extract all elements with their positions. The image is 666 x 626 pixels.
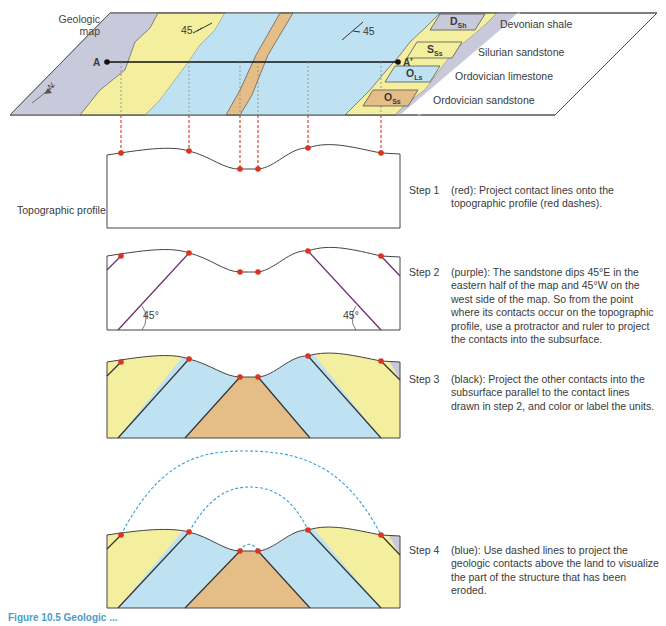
legend-label-silurian-sandstone: Silurian sandstone [478,46,564,58]
step-3-instruction: Step 3(black): Project the other contact… [409,373,659,413]
legend-label-devonian-shale: Devonian shale [500,18,572,30]
topographic-profile-label: Topographic profile [17,204,106,217]
legend-symbol-silurian-sandstone: SSs [427,43,443,57]
legend-symbol-ordovician-sandstone: OSs [384,91,401,105]
step-1-instruction: Step 1(red): Project contact lines onto … [409,184,659,211]
topographic-profile-step1 [107,145,400,228]
legend-label-ordovician-sandstone: Ordovician sandstone [433,94,535,106]
legend-symbol-ordovician-limestone: OLs [406,67,422,81]
point-a-label: A [93,56,100,69]
dip-label-west: 45 [181,24,193,37]
angle-label-east: 45° [343,309,359,322]
dip-label-east: 45 [363,25,375,38]
legend-symbol-devonian-shale: DSh [450,15,467,29]
cross-section-step4 [100,451,420,615]
cross-section-step3 [100,340,420,450]
step-2-instruction: Step 2(purple): The sandstone dips 45°E … [409,266,659,346]
figure-caption: Figure 10.5 Geologic ... [8,612,117,623]
angle-label-west: 45° [143,309,159,322]
step-4-instruction: Step 4(blue): Use dashed lines to projec… [409,544,659,598]
legend-label-ordovician-limestone: Ordovician limestone [455,70,553,82]
map-title: Geologic map [50,13,100,37]
